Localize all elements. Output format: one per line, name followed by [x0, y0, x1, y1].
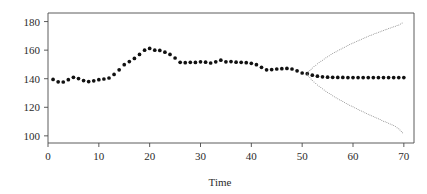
series-upper-bound — [307, 22, 403, 73]
data-point — [56, 80, 60, 84]
bound-dot — [337, 50, 338, 51]
bound-dot — [314, 81, 315, 82]
bound-dot — [332, 95, 333, 96]
data-point — [138, 53, 142, 57]
bound-dot — [373, 116, 374, 117]
chart-canvas: 100120140160180 010203040506070 Time — [0, 0, 427, 194]
bound-dot — [378, 32, 379, 33]
x-tick-label: 10 — [93, 150, 105, 162]
data-point — [255, 63, 259, 67]
data-point — [77, 77, 81, 81]
data-point — [366, 76, 370, 80]
bound-dot — [346, 103, 347, 104]
bound-dot — [371, 115, 372, 116]
x-axis-title: Time — [209, 176, 232, 188]
bound-dot — [307, 73, 308, 74]
bound-dot — [308, 71, 309, 72]
series-forecast — [310, 73, 405, 79]
data-point — [158, 49, 162, 53]
series-lower-bound — [307, 74, 403, 133]
data-point — [117, 68, 121, 72]
bound-dot — [368, 114, 369, 115]
bound-dot — [336, 97, 337, 98]
data-point — [310, 73, 314, 77]
bound-dot — [329, 93, 330, 94]
data-point — [234, 60, 238, 64]
data-point — [153, 48, 157, 52]
bound-dot — [317, 85, 318, 86]
bound-dot — [322, 60, 323, 61]
bound-dot — [354, 42, 355, 43]
data-point — [102, 77, 106, 81]
bound-dot — [380, 119, 381, 120]
bound-dot — [330, 54, 331, 55]
bound-dot — [308, 75, 309, 76]
bound-dot — [390, 27, 391, 28]
data-point — [382, 76, 386, 80]
bound-dot — [312, 80, 313, 81]
data-point — [239, 60, 243, 64]
bound-dot — [388, 28, 389, 29]
bound-dot — [385, 121, 386, 122]
data-point — [387, 76, 391, 80]
data-point — [244, 61, 248, 65]
data-point — [275, 67, 279, 71]
bound-dot — [307, 74, 308, 75]
data-point — [107, 76, 111, 80]
bound-dot — [361, 111, 362, 112]
bound-dot — [327, 92, 328, 93]
x-tick-label: 0 — [45, 150, 51, 162]
data-point — [178, 60, 182, 64]
bound-dot — [354, 107, 355, 108]
data-point — [249, 61, 253, 65]
data-point — [97, 78, 101, 82]
data-point — [204, 60, 208, 64]
data-point — [285, 67, 289, 71]
data-point — [280, 67, 284, 71]
bound-dot — [376, 118, 377, 119]
bound-dot — [383, 30, 384, 31]
data-point — [392, 76, 396, 80]
bound-dot — [347, 45, 348, 46]
data-point — [402, 76, 406, 80]
bound-dot — [346, 46, 347, 47]
data-point — [295, 69, 299, 73]
bound-dot — [395, 126, 396, 127]
bound-dot — [376, 32, 377, 33]
bound-dot — [375, 33, 376, 34]
data-point — [163, 50, 167, 54]
bound-dot — [397, 25, 398, 26]
bound-dot — [351, 106, 352, 107]
x-tick-label: 70 — [398, 150, 410, 162]
bound-dot — [361, 39, 362, 40]
data-point — [397, 76, 401, 80]
bound-dot — [369, 35, 370, 36]
x-tick-label: 30 — [195, 150, 207, 162]
data-point — [72, 75, 76, 79]
bound-dot — [339, 99, 340, 100]
bound-dot — [373, 34, 374, 35]
bound-dot — [324, 59, 325, 60]
bound-dot — [325, 91, 326, 92]
bound-dot — [369, 115, 370, 116]
data-point — [51, 78, 55, 82]
data-point — [346, 76, 350, 80]
data-point — [127, 60, 131, 64]
data-point — [199, 60, 203, 64]
data-point — [260, 65, 264, 69]
bound-dot — [334, 52, 335, 53]
data-point — [61, 80, 65, 84]
x-axis-ticks: 010203040506070 — [45, 143, 410, 162]
data-point — [188, 60, 192, 64]
bound-dot — [375, 117, 376, 118]
y-axis-ticks: 100120140160180 — [24, 16, 49, 142]
bound-dot — [371, 34, 372, 35]
data-point — [351, 76, 355, 80]
bound-dot — [381, 31, 382, 32]
bound-dot — [309, 77, 310, 78]
bound-dot — [386, 29, 387, 30]
data-point — [219, 58, 223, 62]
bound-dot — [315, 83, 316, 84]
bound-dot — [342, 101, 343, 102]
bound-dot — [393, 26, 394, 27]
